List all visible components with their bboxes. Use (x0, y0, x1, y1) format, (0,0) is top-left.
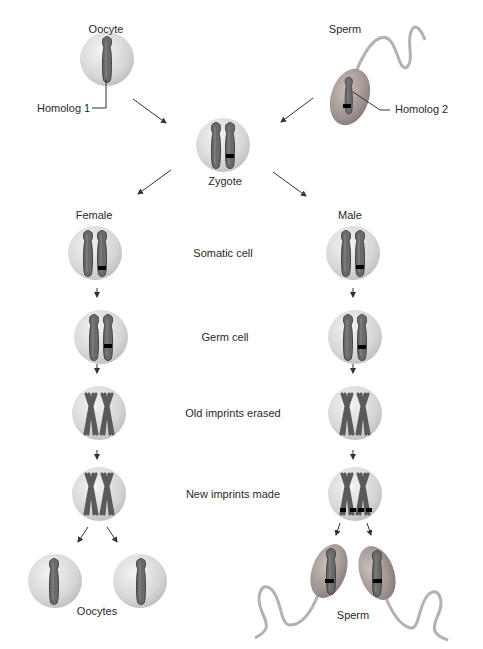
female-germ-cell (74, 310, 128, 364)
stage-label-erased: Old imprints erased (185, 407, 280, 419)
sperm-bottom-right (351, 541, 448, 640)
male-erased-cell (328, 386, 382, 440)
sperm-label: Sperm (329, 23, 361, 35)
arrow-female-split-left (78, 527, 88, 542)
homolog1-label: Homolog 1 (37, 102, 90, 114)
arrow-male-split-left (336, 523, 340, 535)
stage-label-new: New imprints made (186, 488, 280, 500)
stage-label-somatic: Somatic cell (193, 247, 252, 259)
male-somatic-cell (326, 226, 380, 280)
stage-label-germ: Germ cell (201, 331, 248, 343)
female-new-imprint-cell (72, 467, 126, 521)
female-label: Female (76, 209, 113, 221)
male-germ-cell (328, 310, 382, 364)
homolog2-label: Homolog 2 (395, 103, 448, 115)
zygote-cell (196, 118, 250, 172)
sperm-bottom-left (255, 539, 355, 638)
oocytes-label: Oocytes (77, 605, 117, 617)
male-new-imprint-cell (328, 467, 382, 521)
female-erased-cell (72, 386, 126, 440)
oocyte-cell (80, 32, 134, 86)
oocyte-left (28, 554, 82, 608)
arrow-male-split-right (367, 523, 371, 535)
arrow-female-split-right (107, 527, 117, 542)
oocyte-right (113, 554, 167, 608)
diagram-canvas (0, 0, 483, 649)
arrow-zygote-to-female (138, 170, 171, 194)
male-label: Male (338, 209, 362, 221)
arrow-zygote-to-male (273, 172, 306, 196)
zygote-label: Zygote (208, 175, 242, 187)
female-somatic-cell (68, 226, 122, 280)
oocyte-label: Oocyte (89, 23, 124, 35)
arrow-sperm-to-zygote (281, 98, 313, 122)
sperm-bottom-label: Sperm (337, 609, 369, 621)
arrow-oocyte-to-zygote (133, 99, 166, 123)
